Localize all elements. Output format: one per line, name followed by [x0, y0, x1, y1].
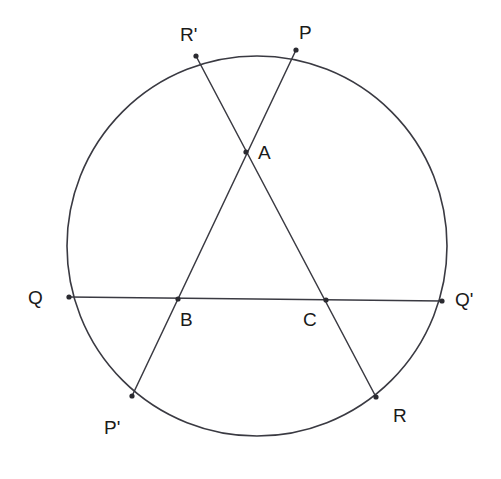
point-label-C: C	[303, 310, 317, 329]
geometry-canvas	[0, 0, 501, 479]
point-label-R: R	[393, 406, 407, 425]
point-label-Qprime: Q'	[455, 290, 473, 309]
point-marker-Pprime	[129, 393, 134, 398]
point-label-Q: Q	[28, 288, 43, 307]
chord-layer	[69, 50, 442, 397]
point-marker-C	[323, 297, 328, 302]
point-marker-Qprime	[439, 298, 444, 303]
point-marker-layer	[66, 47, 444, 399]
point-marker-Q	[66, 294, 71, 299]
main-circle	[67, 56, 447, 436]
geometry-diagram: P R' A Q B C Q' P' R	[0, 0, 501, 479]
point-marker-P	[293, 47, 298, 52]
point-label-B: B	[180, 310, 193, 329]
point-label-Pprime: P'	[104, 418, 120, 437]
chord-Q-Qprime	[69, 297, 442, 301]
point-marker-Rprime	[193, 53, 198, 58]
point-label-Rprime: R'	[180, 25, 197, 44]
point-label-P: P	[299, 23, 312, 42]
point-label-A: A	[258, 143, 271, 162]
point-marker-R	[373, 394, 378, 399]
point-marker-A	[243, 149, 248, 154]
chord-P-Pprime	[132, 50, 296, 396]
chord-Rprime-R	[196, 56, 376, 397]
point-marker-B	[175, 296, 180, 301]
